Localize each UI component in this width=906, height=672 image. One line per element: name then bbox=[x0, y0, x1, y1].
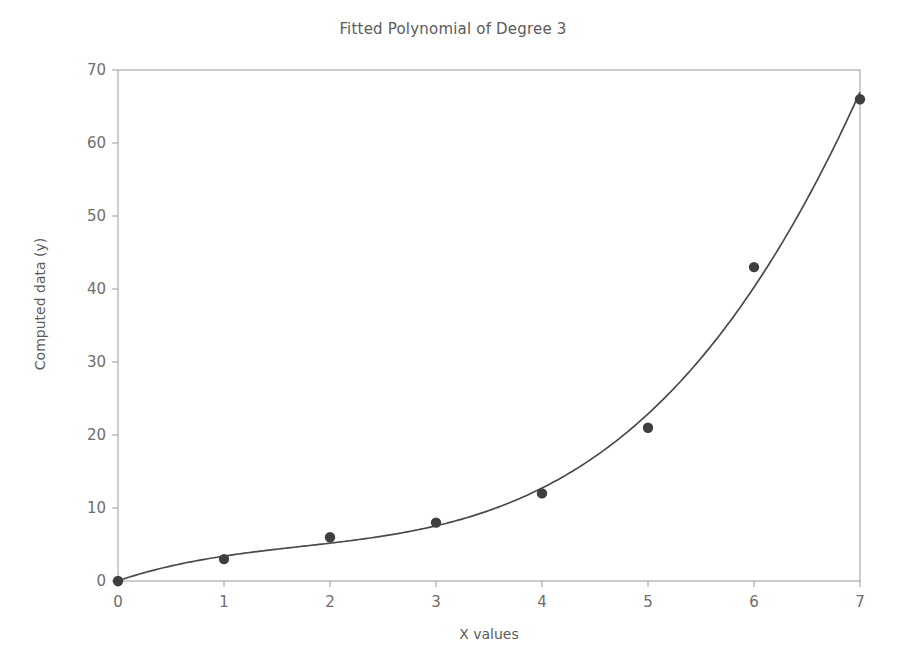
chart-figure: Fitted Polynomial of Degree 3 0102030405… bbox=[0, 0, 906, 672]
x-tick-label: 4 bbox=[537, 593, 547, 611]
x-tick-label: 1 bbox=[219, 593, 229, 611]
x-tick-label: 0 bbox=[113, 593, 123, 611]
x-tick-label: 5 bbox=[643, 593, 653, 611]
data-point bbox=[113, 576, 123, 586]
x-tick-label: 6 bbox=[749, 593, 759, 611]
data-point bbox=[749, 262, 759, 272]
data-point-markers bbox=[113, 94, 865, 586]
y-tick-label: 0 bbox=[96, 572, 106, 590]
y-tick-label: 60 bbox=[87, 134, 106, 152]
x-tick-label: 7 bbox=[855, 593, 865, 611]
y-tick-label: 50 bbox=[87, 207, 106, 225]
y-tick-label: 40 bbox=[87, 280, 106, 298]
data-point bbox=[537, 488, 547, 498]
fitted-curve bbox=[118, 92, 860, 581]
data-point bbox=[219, 554, 229, 564]
x-tick-label: 2 bbox=[325, 593, 335, 611]
data-point bbox=[643, 423, 653, 433]
plot-area: 010203040506070 01234567 bbox=[0, 0, 906, 672]
y-axis-label: Computed data (y) bbox=[32, 204, 48, 404]
x-axis-label: X values bbox=[118, 626, 860, 642]
y-tick-label: 10 bbox=[87, 499, 106, 517]
data-point bbox=[431, 517, 441, 527]
plot-frame bbox=[118, 70, 860, 581]
y-tick-label: 30 bbox=[87, 353, 106, 371]
data-point bbox=[855, 94, 865, 104]
y-axis-ticks: 010203040506070 bbox=[87, 61, 118, 590]
x-tick-label: 3 bbox=[431, 593, 441, 611]
x-axis-ticks: 01234567 bbox=[113, 581, 865, 611]
y-tick-label: 70 bbox=[87, 61, 106, 79]
y-tick-label: 20 bbox=[87, 426, 106, 444]
data-point bbox=[325, 532, 335, 542]
